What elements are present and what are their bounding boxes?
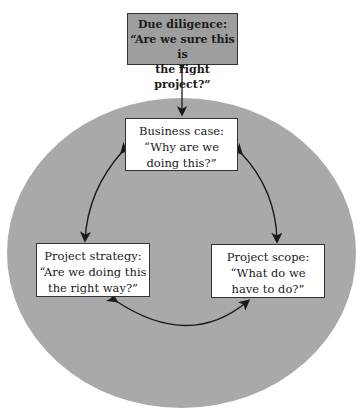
project-strategy-line2: the right way?” [37, 280, 149, 296]
business-case-title: Business case: [126, 123, 237, 139]
due-diligence-title: Due diligence: [128, 17, 237, 32]
project-strategy-line1: “Are we doing this [37, 264, 149, 280]
due-diligence-line2: the right project?” [128, 62, 237, 92]
project-scope-line2: have to do?” [212, 281, 324, 297]
project-strategy-title: Project strategy: [37, 248, 149, 264]
project-scope-title: Project scope: [212, 249, 324, 265]
project-strategy-box: Project strategy: “Are we doing this the… [36, 243, 150, 297]
due-diligence-box: Due diligence: “Are we sure this is the … [127, 13, 238, 65]
project-scope-box: Project scope: “What do we have to do?” [211, 244, 325, 298]
business-case-line2: doing this?” [126, 155, 237, 171]
project-scope-line1: “What do we [212, 265, 324, 281]
arrow-business-to-strategy [85, 152, 122, 240]
due-diligence-line1: “Are we sure this is [128, 32, 237, 62]
arrow-strategy-to-scope [116, 301, 248, 326]
arrow-business-to-scope [241, 153, 277, 241]
business-case-box: Business case: “Why are we doing this?” [125, 118, 238, 171]
business-case-line1: “Why are we [126, 139, 237, 155]
